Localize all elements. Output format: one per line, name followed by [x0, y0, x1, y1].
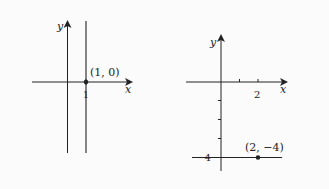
- point-2-neg4: [256, 155, 261, 160]
- right-y-label: y: [209, 36, 217, 49]
- left-x-label: x: [125, 83, 132, 96]
- right-y-tick-label-neg4: −4: [196, 152, 211, 163]
- figure-canvas: y x 1 (1, 0) y x 2 −4 (2, −4): [0, 0, 329, 189]
- right-x-label: x: [280, 83, 287, 96]
- left-y-label: y: [56, 20, 64, 33]
- left-point-label: (1, 0): [90, 66, 120, 79]
- point-1-0: [84, 80, 89, 85]
- right-point-label: (2, −4): [245, 141, 284, 154]
- left-graph: y x 1 (1, 0): [32, 20, 132, 153]
- right-graph: y x 2 −4 (2, −4): [186, 36, 287, 171]
- right-x-tick-label-2: 2: [254, 89, 260, 100]
- left-tick-label-1: 1: [83, 90, 89, 100]
